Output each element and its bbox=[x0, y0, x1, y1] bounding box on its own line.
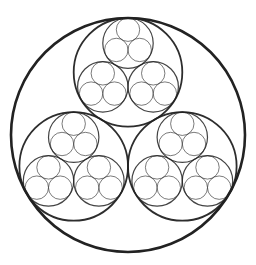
background bbox=[0, 0, 256, 265]
nested-circles-diagram bbox=[0, 0, 256, 265]
